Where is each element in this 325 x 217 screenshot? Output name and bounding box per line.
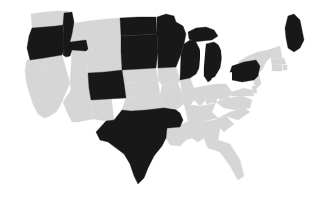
state-south-dakota[interactable]	[121, 34, 158, 70]
state-colorado[interactable]	[88, 70, 126, 100]
state-massachusetts[interactable]	[271, 58, 286, 65]
state-north-dakota[interactable]	[120, 17, 157, 36]
state-oregon[interactable]	[27, 25, 66, 60]
state-utah[interactable]	[70, 49, 89, 90]
state-wyoming[interactable]	[86, 45, 122, 73]
state-connecticut[interactable]	[272, 65, 282, 71]
us-map-figure	[0, 0, 325, 217]
us-states-map	[0, 0, 325, 217]
state-louisiana[interactable]	[166, 127, 186, 146]
state-iowa[interactable]	[158, 67, 180, 85]
state-kansas[interactable]	[124, 80, 160, 98]
state-rhode-island[interactable]	[283, 65, 287, 70]
